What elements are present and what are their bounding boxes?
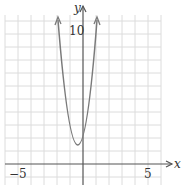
x-axis-label: x <box>174 157 181 171</box>
parabola-curve <box>58 20 97 145</box>
x-tick-max: 5 <box>144 167 152 181</box>
axes <box>5 6 172 185</box>
y-axis-label: y <box>73 1 81 15</box>
chart: x y −5 5 10 <box>0 0 184 185</box>
y-tick-ten: 10 <box>69 24 84 38</box>
x-tick-min: −5 <box>9 167 27 181</box>
